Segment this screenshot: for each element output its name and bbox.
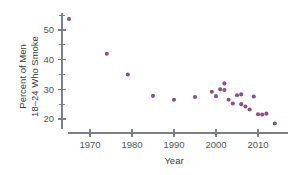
data-point (210, 90, 214, 94)
y-tick-label: 30 (43, 84, 54, 95)
data-point (239, 92, 243, 96)
x-tick-label: 2000 (205, 139, 226, 150)
data-point (222, 88, 226, 92)
scatter-plot-figure: 2030405019701980199020002010YearPercent … (0, 0, 298, 175)
data-point (222, 81, 226, 85)
data-point (67, 17, 71, 21)
data-point (239, 102, 243, 106)
y-axis-title-line2: 18–24 Who Smoke (29, 36, 40, 117)
data-point (126, 72, 130, 76)
data-point (227, 98, 231, 102)
y-tick-label: 20 (43, 113, 54, 124)
chart-canvas: 2030405019701980199020002010YearPercent … (0, 0, 298, 175)
data-point (260, 113, 264, 117)
y-tick-label: 40 (43, 54, 54, 65)
data-point (248, 107, 252, 111)
data-point (256, 112, 260, 116)
data-point (231, 102, 235, 106)
data-point (105, 52, 109, 56)
x-tick-label: 1990 (163, 139, 184, 150)
x-tick-label: 1970 (79, 139, 100, 150)
data-point (172, 98, 176, 102)
data-point (218, 87, 222, 91)
data-point (273, 121, 277, 125)
x-tick-label: 1980 (121, 139, 142, 150)
y-tick-label: 50 (43, 24, 54, 35)
data-point (151, 94, 155, 98)
data-point (252, 94, 256, 98)
data-point (243, 104, 247, 108)
data-point (235, 93, 239, 97)
data-point (193, 95, 197, 99)
x-axis-title: Year (164, 155, 183, 166)
x-tick-label: 2010 (247, 139, 268, 150)
data-point (214, 94, 218, 98)
y-axis-title-line1: Percent of Men (17, 44, 28, 108)
data-point (264, 112, 268, 116)
